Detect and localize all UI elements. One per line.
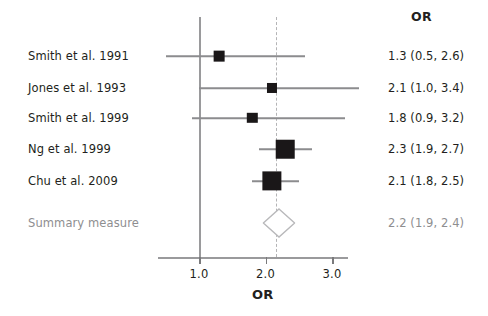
summary-or-value: 2.2 (1.9, 2.4)	[388, 216, 464, 230]
or-value: 1.3 (0.5, 2.6)	[388, 49, 464, 63]
x-axis-title: OR	[252, 287, 274, 302]
forest-plot-figure: OR Smith et al. 19911.3 (0.5, 2.6)Jones …	[0, 0, 488, 316]
effect-estimate-marker	[247, 113, 257, 123]
study-label: Jones et al. 1993	[28, 81, 126, 95]
or-value: 2.3 (1.9, 2.7)	[388, 142, 464, 156]
x-axis-tick-label: 3.0	[323, 267, 342, 281]
effect-estimate-marker	[214, 51, 225, 62]
or-value: 2.1 (1.8, 2.5)	[388, 174, 464, 188]
effect-estimate-marker	[263, 171, 282, 190]
summary-diamond	[262, 208, 295, 238]
study-label: Chu et al. 2009	[28, 174, 118, 188]
confidence-interval-line	[166, 55, 306, 57]
study-label: Ng et al. 1999	[28, 142, 111, 156]
effect-estimate-marker	[276, 140, 295, 159]
x-axis-tick	[199, 257, 201, 264]
or-column-header: OR	[411, 9, 432, 24]
confidence-interval-line	[192, 117, 345, 119]
null-reference-line	[199, 17, 201, 257]
x-axis-tick-label: 2.0	[256, 267, 275, 281]
study-label: Smith et al. 1991	[28, 49, 129, 63]
summary-label: Summary measure	[28, 216, 139, 230]
confidence-interval-line	[199, 87, 359, 89]
study-label: Smith et al. 1999	[28, 111, 129, 125]
x-axis-tick	[332, 257, 334, 264]
x-axis-line	[158, 257, 348, 259]
effect-estimate-marker	[267, 83, 277, 93]
x-axis-tick-label: 1.0	[190, 267, 209, 281]
or-value: 2.1 (1.0, 3.4)	[388, 81, 464, 95]
x-axis-tick	[266, 257, 268, 264]
or-value: 1.8 (0.9, 3.2)	[388, 111, 464, 125]
